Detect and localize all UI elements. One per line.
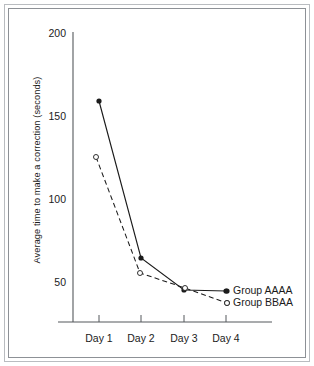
y-tick-label-100: 100 [32, 193, 66, 205]
y-axis-title: Average time to make a correction (secon… [32, 55, 42, 285]
legend-label-group-aaaa: Group AAAA [233, 284, 293, 296]
data-point-bbaa-day3 [183, 286, 188, 291]
y-tick-label-50: 50 [32, 276, 66, 288]
data-point-aaaa-day1 [96, 98, 101, 103]
legend-marker-group-bbaa [225, 301, 230, 306]
line-chart-plot [0, 0, 314, 366]
legend-label-group-bbaa: Group BBAA [233, 296, 293, 308]
legend-marker-group-aaaa [224, 288, 229, 293]
x-tick-label-day2: Day 2 [118, 332, 164, 344]
data-point-bbaa-day2 [138, 271, 143, 276]
x-tick-label-day4: Day 4 [203, 332, 249, 344]
x-tick-label-day1: Day 1 [76, 332, 122, 344]
series-line-group-aaaa [99, 101, 226, 291]
y-tick-label-150: 150 [32, 110, 66, 122]
x-tick-label-day3: Day 3 [161, 332, 207, 344]
figure-container: Average time to make a correction (secon… [0, 0, 314, 366]
data-point-aaaa-day2 [138, 255, 143, 260]
y-tick-label-200: 200 [32, 27, 66, 39]
series-line-group-bbaa [96, 157, 227, 303]
data-point-bbaa-day1 [94, 155, 99, 160]
